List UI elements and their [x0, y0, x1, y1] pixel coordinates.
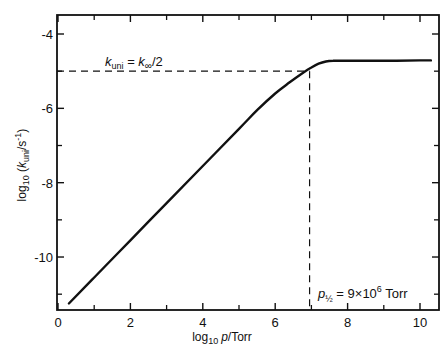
- y-tick-label: -8: [41, 176, 53, 191]
- plot-border: [57, 15, 439, 310]
- plot-frame: [57, 15, 439, 310]
- half-pressure-annotation: p½ = 9×106 Torr: [317, 284, 408, 304]
- x-tick-label: 6: [272, 315, 279, 330]
- reference-lines: [57, 71, 310, 310]
- x-tick-label: 0: [54, 315, 61, 330]
- x-axis-label: log10p/Torr: [192, 330, 252, 346]
- y-tick-label: -6: [41, 101, 53, 116]
- x-tick-label: 8: [344, 315, 351, 330]
- half-limit-annotation: kuni = k∞/2: [105, 54, 163, 71]
- y-tick-label: -10: [34, 250, 53, 265]
- x-tick-label: 10: [413, 315, 427, 330]
- axis-ticks: 0246810-4-6-8-10: [34, 15, 439, 330]
- x-tick-label: 4: [199, 315, 206, 330]
- data-curve: [69, 60, 431, 303]
- y-tick-label: -4: [41, 27, 53, 42]
- x-tick-label: 2: [127, 315, 134, 330]
- y-axis-label: log10 (kuni/s-1): [13, 129, 31, 202]
- chart: 0246810-4-6-8-10 kuni = k∞/2 p½ = 9×106 …: [0, 0, 448, 357]
